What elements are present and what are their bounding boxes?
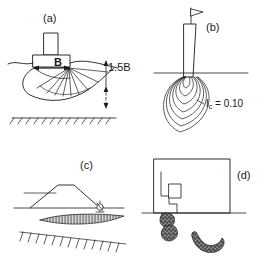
influence-depth-label: 1.5B: [108, 62, 131, 73]
panel-c-label: (c): [80, 160, 93, 171]
embankment-shape: [30, 185, 100, 208]
footing-pad-shape: [33, 55, 70, 67]
stress-contours: [163, 77, 209, 132]
radial-shear-fan: [34, 68, 108, 96]
panel-a: (a) B 1.5B: [0, 0, 140, 140]
panel-d: (d): [136, 140, 273, 268]
flag-icon: [191, 8, 203, 24]
instrument-marker: [96, 201, 104, 212]
figure-root: (a) B 1.5B: [0, 0, 273, 268]
panel-b-label: (b): [206, 22, 219, 33]
shear-lens: [40, 214, 124, 224]
stepped-wall-inset: [169, 184, 181, 198]
panel-c-drawing: [0, 140, 140, 268]
boundary-rectangle: [154, 159, 230, 213]
contour-value-label: Ic = 0.10: [206, 99, 243, 109]
rigid-base-hatching: [20, 232, 126, 252]
panel-a-label: (a): [43, 13, 56, 24]
rigid-base-hatching: [10, 118, 116, 124]
failure-block-lower: [192, 232, 224, 253]
contour-leader-line: [197, 100, 204, 104]
panel-c: (c): [0, 140, 140, 268]
panel-b-drawing: [136, 0, 273, 140]
contour-equals-value: = 0.10: [212, 98, 243, 109]
ground-surface-left: [8, 63, 33, 64]
panel-d-drawing: [136, 140, 273, 268]
pressure-bulb: [23, 68, 114, 100]
pile-shaft: [184, 24, 196, 77]
footing-width-label: B: [54, 57, 62, 68]
panel-d-label: (d): [237, 170, 250, 181]
column-shape: [44, 33, 58, 55]
contour-subscript: c: [209, 103, 213, 110]
panel-b: (b) Ic = 0.10: [136, 0, 273, 140]
failure-block-upper: [160, 213, 178, 241]
